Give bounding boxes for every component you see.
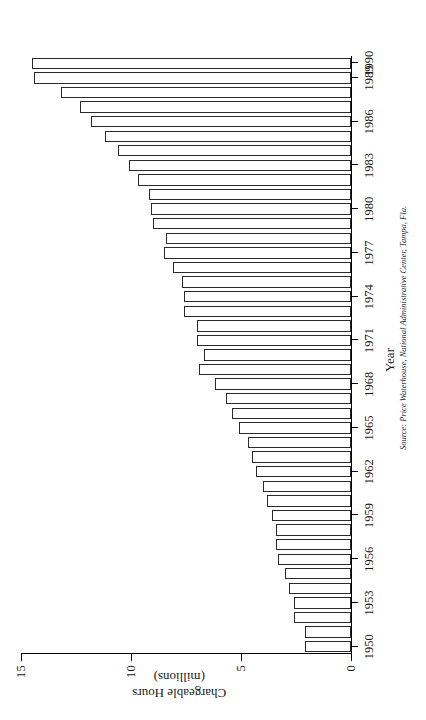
- source-note: Source: Price Waterhouse, National Admin…: [398, 206, 408, 450]
- year-tick-1962: [351, 471, 358, 472]
- bar-1950: [305, 641, 351, 652]
- bar-1952: [294, 612, 351, 623]
- year-tick-1989: [351, 77, 358, 78]
- year-tick-1953: [351, 602, 358, 603]
- category-axis-line: [351, 56, 352, 654]
- year-tick-1965: [351, 427, 358, 428]
- bar-1977: [164, 247, 351, 258]
- year-tick-label-1956: 1956: [362, 547, 377, 572]
- year-tick-label-1953: 1953: [362, 590, 377, 615]
- bar-1966: [232, 408, 351, 419]
- year-tick-1986: [351, 121, 358, 122]
- bar-1956: [278, 554, 351, 565]
- year-tick-1968: [351, 383, 358, 384]
- year-tick-label-1980: 1980: [362, 197, 377, 222]
- bar-1959: [272, 510, 351, 521]
- value-tick-15: [21, 654, 22, 661]
- bar-1961: [263, 481, 351, 492]
- chart-page: 051015 195019531956195919621965196819711…: [0, 0, 426, 720]
- bar-1973: [184, 306, 351, 317]
- bar-1971: [197, 335, 351, 346]
- rotated-figure: 051015 195019531956195919621965196819711…: [13, 10, 413, 710]
- bar-1972: [197, 320, 351, 331]
- year-tick-1980: [351, 208, 358, 209]
- plot-area: [21, 56, 351, 654]
- bar-1984: [118, 145, 351, 156]
- value-tick-label-0: 0: [344, 665, 359, 671]
- year-tick-label-1959: 1959: [362, 503, 377, 528]
- bar-1979: [153, 218, 351, 229]
- year-tick-label-1962: 1962: [362, 459, 377, 484]
- year-tick-label-1950: 1950: [362, 634, 377, 659]
- year-tick-1990: [351, 62, 358, 63]
- bar-1983: [129, 160, 351, 171]
- bar-1990: [32, 58, 351, 69]
- y-axis-title: Chargeable Hours (millions): [14, 669, 344, 702]
- year-tick-label-1990: 1990: [362, 51, 377, 76]
- bar-1974: [184, 291, 351, 302]
- bar-1982: [138, 174, 351, 185]
- bar-1989: [34, 72, 351, 83]
- bar-1987: [80, 101, 351, 112]
- year-tick-label-1968: 1968: [362, 372, 377, 397]
- bar-1980: [151, 203, 351, 214]
- year-tick-label-1986: 1986: [362, 109, 377, 134]
- bar-1954: [289, 583, 351, 594]
- bar-1958: [276, 524, 351, 535]
- bar-1953: [294, 597, 351, 608]
- value-tick-10: [131, 654, 132, 661]
- year-tick-1971: [351, 339, 358, 340]
- bar-1962: [256, 466, 351, 477]
- bar-1988: [61, 87, 351, 98]
- bar-1960: [267, 495, 351, 506]
- bar-1976: [173, 262, 351, 273]
- bar-1965: [239, 422, 351, 433]
- year-tick-1977: [351, 252, 358, 253]
- year-tick-1974: [351, 296, 358, 297]
- bar-1969: [199, 364, 351, 375]
- year-tick-label-1965: 1965: [362, 415, 377, 440]
- bar-1975: [182, 276, 351, 287]
- bar-1963: [252, 451, 351, 462]
- bar-1955: [285, 568, 351, 579]
- year-tick-label-1977: 1977: [362, 240, 377, 265]
- bar-1978: [166, 233, 351, 244]
- year-tick-1983: [351, 164, 358, 165]
- bar-1985: [105, 131, 351, 142]
- x-axis-title: Year: [382, 10, 398, 710]
- value-tick-5: [241, 654, 242, 661]
- year-tick-1959: [351, 514, 358, 515]
- year-tick-label-1983: 1983: [362, 153, 377, 178]
- bar-1967: [226, 393, 351, 404]
- bar-1986: [91, 116, 351, 127]
- bar-1968: [215, 378, 351, 389]
- bar-1951: [305, 626, 351, 637]
- year-tick-1956: [351, 558, 358, 559]
- y-axis-title-line1: Chargeable Hours: [14, 685, 344, 701]
- bar-1970: [204, 349, 351, 360]
- value-tick-0: [351, 654, 352, 661]
- year-tick-label-1974: 1974: [362, 284, 377, 309]
- year-tick-label-1971: 1971: [362, 328, 377, 353]
- bar-1981: [149, 189, 351, 200]
- year-tick-1950: [351, 646, 358, 647]
- y-axis-title-line2: (millions): [14, 669, 344, 685]
- bar-1964: [248, 437, 351, 448]
- bar-1957: [276, 539, 351, 550]
